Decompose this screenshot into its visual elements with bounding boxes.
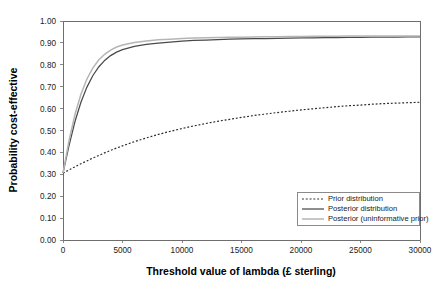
y-tick-label: 0.00 bbox=[40, 236, 56, 245]
y-tick-label: 0.30 bbox=[40, 170, 56, 179]
series-line bbox=[63, 36, 420, 173]
y-tick-label: 0.10 bbox=[40, 214, 56, 223]
series-lines bbox=[63, 36, 420, 173]
y-tick-label: 0.60 bbox=[40, 105, 56, 114]
chart-legend: Prior distributionPosterior distribution… bbox=[297, 192, 429, 225]
x-tick-label: 30000 bbox=[409, 246, 432, 255]
y-tick-label: 1.00 bbox=[40, 17, 56, 26]
legend-label: Posterior (uninformative prior) bbox=[328, 214, 429, 223]
x-tick-label: 25000 bbox=[349, 246, 372, 255]
x-axis-title: Threshold value of lambda (£ sterling) bbox=[146, 265, 336, 277]
x-tick-label: 0 bbox=[61, 246, 66, 255]
x-axis-ticks: 050001000015000200002500030000 bbox=[61, 240, 432, 255]
y-tick-label: 0.40 bbox=[40, 148, 56, 157]
y-tick-label: 0.20 bbox=[40, 192, 56, 201]
series-line bbox=[63, 102, 420, 173]
y-tick-label: 0.50 bbox=[40, 127, 56, 136]
x-tick-label: 10000 bbox=[171, 246, 194, 255]
x-tick-label: 15000 bbox=[230, 246, 253, 255]
legend-label: Prior distribution bbox=[328, 194, 383, 203]
series-line bbox=[63, 37, 420, 173]
cost-effectiveness-acceptability-chart: 0.000.100.200.300.400.500.600.700.800.90… bbox=[0, 0, 442, 284]
y-tick-label: 0.70 bbox=[40, 83, 56, 92]
y-tick-label: 0.90 bbox=[40, 39, 56, 48]
y-tick-label: 0.80 bbox=[40, 61, 56, 70]
chart-canvas: 0.000.100.200.300.400.500.600.700.800.90… bbox=[0, 0, 442, 284]
y-axis-title: Probability cost-effective bbox=[7, 67, 19, 192]
y-axis-ticks: 0.000.100.200.300.400.500.600.700.800.90… bbox=[40, 17, 63, 245]
x-tick-label: 5000 bbox=[113, 246, 132, 255]
x-tick-label: 20000 bbox=[290, 246, 313, 255]
legend-label: Posterior distribution bbox=[328, 204, 397, 213]
